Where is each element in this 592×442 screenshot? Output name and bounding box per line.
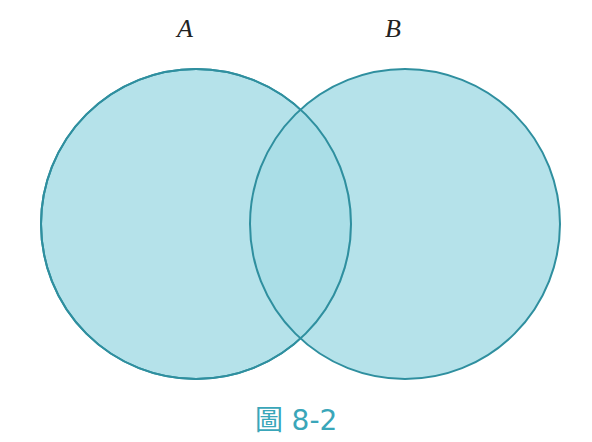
venn-diagram (0, 0, 592, 442)
set-b-label: B (385, 14, 401, 44)
figure-caption: 圖 8-2 (0, 398, 592, 438)
set-a-label: A (177, 14, 193, 44)
set-b-circle (250, 69, 560, 379)
